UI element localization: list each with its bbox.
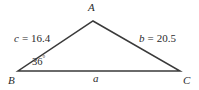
side-label-b: b=20.5 [139,33,176,44]
vertex-label-b: B [8,75,15,86]
side-c-variable: c [14,32,19,44]
vertex-label-a: A [88,2,95,13]
degree-symbol-icon: ° [43,54,46,62]
side-a-variable: a [93,72,99,84]
side-c-equals: = [22,32,28,44]
angle-b-value: 36 [32,56,43,67]
triangle-outline-svg [0,0,199,90]
side-b-equals: = [148,32,154,44]
side-b-value: 20.5 [157,32,176,44]
triangle-diagram: A B C c=16.4 b=20.5 a 36° [0,0,199,90]
side-label-a: a [93,73,99,84]
side-label-c: c=16.4 [14,33,50,44]
side-c-value: 16.4 [31,32,50,44]
vertex-label-c: C [183,75,190,86]
angle-label-b: 36° [32,55,45,67]
side-b-variable: b [139,32,145,44]
